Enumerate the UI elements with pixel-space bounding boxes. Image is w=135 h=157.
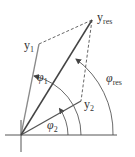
label-y1: y1 [24, 38, 34, 54]
label-phi1: φ1 [37, 70, 48, 86]
label-y2: y2 [84, 97, 94, 113]
label-phi2: φ2 [47, 118, 58, 134]
vector-yres [21, 20, 92, 135]
dashed-yres-to-y2 [81, 20, 92, 101]
label-phires: φres [106, 71, 122, 87]
phasor-diagram: y1 yres y2 φ1 φ2 φres [0, 0, 135, 157]
label-yres: yres [97, 10, 112, 26]
